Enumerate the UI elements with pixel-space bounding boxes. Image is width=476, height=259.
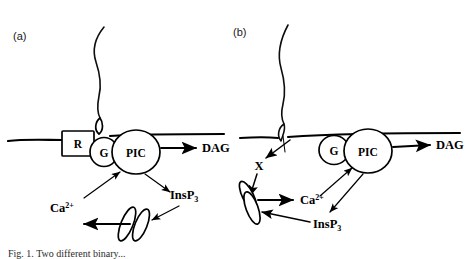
signal-tail-b xyxy=(279,25,288,124)
ligand-body-a xyxy=(96,118,103,134)
insp3-label-b: InsP3 xyxy=(313,217,341,233)
arrow-membrane-to-x-b xyxy=(266,140,290,158)
g-protein-label-b: G xyxy=(330,145,339,157)
insp3-label-a: InsP3 xyxy=(170,188,198,204)
receptor-label-a: R xyxy=(74,138,83,150)
panel-a-label: (a) xyxy=(13,30,26,42)
internal-store-cisterna-2-b xyxy=(241,190,264,226)
pic-label-b: PIC xyxy=(358,146,378,158)
g-protein-label-a: G xyxy=(100,147,109,159)
dag-label-a: DAG xyxy=(202,141,230,155)
arrow-pic-to-dag-b xyxy=(393,145,430,147)
panel-b: (b) X G PIC DAG xyxy=(233,25,464,233)
intermediate-x-label-b: X xyxy=(254,159,263,173)
membrane-line-b-left xyxy=(240,137,278,138)
panel-b-label: (b) xyxy=(233,26,246,38)
pic-label-a: PIC xyxy=(126,147,146,159)
arrow-calcium-to-pic-a xyxy=(84,172,120,198)
calcium-label-b: Ca2+ xyxy=(300,193,324,207)
arrow-pic-to-insp3-b xyxy=(330,174,363,212)
panel-a: (a) R G PIC DAG xyxy=(8,27,230,243)
membrane-line-a-left xyxy=(8,140,62,141)
calcium-label-a: Ca2+ xyxy=(50,201,74,215)
arrow-insp3-to-store-a xyxy=(152,206,179,220)
figure-container: (a) R G PIC DAG xyxy=(0,0,476,259)
ligand-tail-a xyxy=(94,27,104,118)
dag-label-b: DAG xyxy=(436,138,464,152)
arrow-pic-to-insp3-a xyxy=(145,174,170,192)
arrow-insp3-to-store-b xyxy=(262,212,310,222)
figure-canvas: (a) R G PIC DAG xyxy=(0,0,476,259)
figure-caption: Fig. 1. Two different binary... xyxy=(8,248,125,259)
